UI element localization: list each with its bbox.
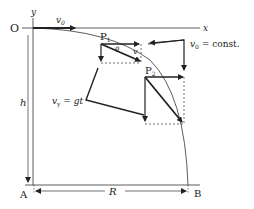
vx-const-pointer [148, 40, 184, 70]
projectile-diagram: O y x v0 P1 θ v P2 v0 = const. vy = gt h… [0, 0, 254, 209]
point-a-label: A [19, 189, 28, 200]
p1-label: P1 [100, 31, 111, 43]
v-label: v [133, 47, 138, 56]
v0-const-label: v0 = const. [190, 39, 240, 50]
p2-label: P2 [145, 65, 156, 77]
point-b-label: B [194, 188, 201, 199]
v0-label: v0 [56, 15, 65, 26]
vy-pointer [86, 68, 144, 115]
range-label: R [108, 186, 117, 197]
x-axis-label: x [203, 23, 208, 33]
vy-label: vy = gt [52, 96, 84, 108]
origin-label: O [10, 22, 19, 35]
vx-const-pointer-left [150, 40, 184, 43]
y-axis-label: y [30, 7, 37, 17]
p2-velocity-box [145, 77, 184, 124]
height-label-text: h [20, 97, 26, 108]
